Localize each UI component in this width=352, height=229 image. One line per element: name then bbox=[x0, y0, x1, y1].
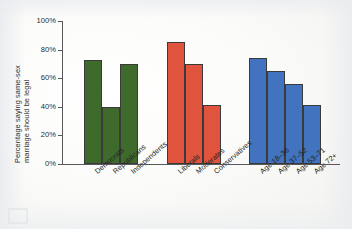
y-tick-label-0pct: 0% bbox=[26, 160, 56, 168]
bar-moderates bbox=[185, 64, 203, 164]
y-axis-line bbox=[62, 21, 63, 165]
y-tick-label-80pct: 80% bbox=[26, 46, 56, 54]
bar-age-18-36 bbox=[249, 58, 267, 164]
y-tick-label-40pct: 40% bbox=[26, 103, 56, 111]
x-axis-line bbox=[62, 164, 340, 165]
y-axis-label-line2: marriage should be legal bbox=[22, 80, 31, 163]
y-tick-label-100pct: 100% bbox=[26, 17, 56, 25]
y-tick-label-20pct: 20% bbox=[26, 131, 56, 139]
bar-chart: Percentage saying same-sex marriage shou… bbox=[0, 0, 352, 229]
scan-artifact bbox=[8, 208, 28, 224]
y-tick-label-60pct: 60% bbox=[26, 74, 56, 82]
bar-liberals bbox=[167, 42, 185, 164]
bar-democrats bbox=[84, 60, 102, 164]
y-axis-label-line1: Percentage saying same-sex bbox=[13, 65, 22, 163]
